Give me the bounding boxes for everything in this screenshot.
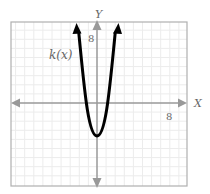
y-axis-label: Y [95, 9, 102, 20]
curve-arrow-right [113, 23, 122, 34]
x-axis-label: X [194, 98, 202, 109]
x-tick-8: 8 [166, 112, 172, 122]
curve-arrow-left [73, 23, 82, 34]
graph-canvas [0, 0, 210, 194]
y-axis [93, 20, 102, 188]
curve-label-k: k(x) [49, 49, 72, 61]
y-tick-8: 8 [88, 34, 94, 44]
grid [11, 22, 187, 186]
